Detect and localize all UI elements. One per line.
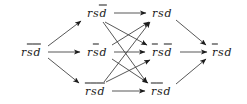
- literal-d: d: [99, 47, 107, 58]
- edge-n2-to-n4: [112, 22, 149, 45]
- node-n6: rsd: [151, 86, 171, 97]
- node-n0: rsd: [21, 47, 41, 58]
- literal-d-negated: d: [97, 86, 105, 97]
- edge-n4-to-n7: [176, 20, 206, 45]
- edge-n0-to-n3: [48, 58, 79, 83]
- edge-n1-to-n6: [103, 22, 147, 83]
- node-n4: rsd: [152, 8, 172, 19]
- graph-diagram: rsdrsdrsdrsdrsdrsdrsdrsd: [0, 0, 247, 104]
- edge-n0-to-n1: [48, 21, 81, 46]
- literal-d-negated: d: [164, 47, 172, 58]
- edge-group: [48, 13, 207, 91]
- literal-d: d: [224, 47, 232, 58]
- node-n1: rsd: [87, 8, 107, 19]
- node-n2: rsd: [87, 47, 107, 58]
- literal-d-negated: d: [33, 47, 41, 58]
- literal-d: d: [164, 8, 172, 19]
- literal-d-negated: d: [99, 8, 107, 19]
- node-n7: rsd: [212, 47, 232, 58]
- edge-n6-to-n7: [176, 59, 206, 84]
- node-n3: rsd: [85, 86, 105, 97]
- node-n5: rsd: [152, 47, 172, 58]
- edge-n2-to-n6: [112, 59, 148, 83]
- literal-d: d: [163, 86, 171, 97]
